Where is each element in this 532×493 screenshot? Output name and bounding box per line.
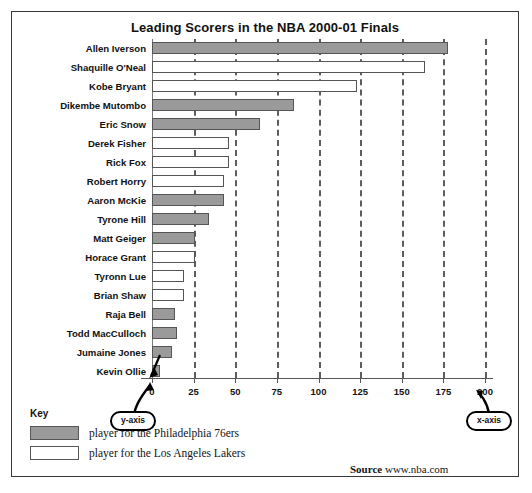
legend-title: Key	[30, 408, 320, 419]
legend-label-lakers: player for the Los Angeles Lakers	[89, 447, 245, 459]
bar-row: Todd MacCulloch	[152, 324, 485, 343]
tick-200	[485, 378, 486, 383]
x-tick-label-100: 100	[311, 386, 327, 397]
category-label: Derek Fisher	[88, 134, 146, 153]
bar	[152, 118, 260, 130]
bar	[152, 99, 294, 111]
legend-swatch-lakers	[30, 446, 79, 460]
category-label: Raja Bell	[105, 305, 146, 324]
bar	[152, 308, 175, 320]
gridline-200	[485, 39, 487, 378]
category-label: Horace Grant	[85, 248, 146, 267]
bar	[152, 194, 224, 206]
category-label: Allen Iverson	[86, 39, 146, 58]
callout-y-axis: y-axis	[110, 411, 156, 431]
source-value: www.nba.com	[385, 463, 448, 475]
source-note: Source www.nba.com	[350, 463, 448, 475]
bar-row: Robert Horry	[152, 172, 485, 191]
x-tick-label-50: 50	[230, 386, 241, 397]
bar-row: Shaquille O'Neal	[152, 58, 485, 77]
x-tick-label-25: 25	[188, 386, 199, 397]
bar	[152, 232, 195, 244]
source-label: Source	[350, 463, 382, 475]
bar-row: Tyrone Hill	[152, 210, 485, 229]
bar-row: Kobe Bryant	[152, 77, 485, 96]
bar	[152, 61, 425, 73]
bar-row: Aaron McKie	[152, 191, 485, 210]
callout-x-axis: x-axis	[466, 411, 512, 431]
legend-label-sixers: player for the Philadelphia 76ers	[89, 427, 239, 439]
category-label: Dikembe Mutombo	[60, 96, 146, 115]
bar	[152, 175, 224, 187]
chart-title: Leading Scorers in the NBA 2000-01 Final…	[12, 20, 518, 35]
x-tick-label-200: 200	[477, 386, 493, 397]
category-label: Kobe Bryant	[89, 77, 146, 96]
bar-row: Tyronn Lue	[152, 267, 485, 286]
bar-row: Raja Bell	[152, 305, 485, 324]
bar-row: Allen Iverson	[152, 39, 485, 58]
legend-swatch-sixers	[30, 426, 79, 440]
bar	[152, 346, 172, 358]
bar-row: Jumaine Jones	[152, 343, 485, 362]
bar-row: Dikembe Mutombo	[152, 96, 485, 115]
category-label: Shaquille O'Neal	[71, 58, 146, 77]
bar-row: Rick Fox	[152, 153, 485, 172]
bar	[152, 365, 160, 377]
bar-row: Eric Snow	[152, 115, 485, 134]
bar	[152, 137, 229, 149]
legend-item-sixers: player for the Philadelphia 76ers	[30, 426, 320, 440]
bar	[152, 270, 184, 282]
bar	[152, 156, 229, 168]
plot-area: Allen IversonShaquille O'NealKobe Bryant…	[152, 39, 485, 378]
legend-item-lakers: player for the Los Angeles Lakers	[30, 446, 320, 460]
bar	[152, 80, 357, 92]
category-label: Todd MacCulloch	[67, 324, 146, 343]
category-label: Tyronn Lue	[94, 267, 146, 286]
bar	[152, 213, 209, 225]
bar-row: Kevin Ollie	[152, 362, 485, 381]
bar	[152, 42, 448, 54]
category-label: Tyrone Hill	[97, 210, 146, 229]
x-tick-label-0: 0	[149, 386, 154, 397]
x-tick-label-125: 125	[352, 386, 368, 397]
bar-row: Matt Geiger	[152, 229, 485, 248]
x-tick-label-75: 75	[272, 386, 283, 397]
bar-row: Brian Shaw	[152, 286, 485, 305]
bar	[152, 289, 184, 301]
category-label: Rick Fox	[106, 153, 146, 172]
category-label: Eric Snow	[100, 115, 146, 134]
category-label: Robert Horry	[87, 172, 146, 191]
bar	[152, 251, 195, 263]
x-tick-label-175: 175	[435, 386, 451, 397]
bar-row: Horace Grant	[152, 248, 485, 267]
category-label: Matt Geiger	[93, 229, 146, 248]
category-label: Brian Shaw	[94, 286, 146, 305]
bar	[152, 327, 177, 339]
category-label: Kevin Ollie	[96, 362, 146, 381]
category-label: Aaron McKie	[87, 191, 146, 210]
bar-row: Derek Fisher	[152, 134, 485, 153]
chart-frame: Leading Scorers in the NBA 2000-01 Final…	[11, 11, 519, 477]
x-tick-label-150: 150	[394, 386, 410, 397]
legend: Key player for the Philadelphia 76ers pl…	[30, 408, 320, 466]
category-label: Jumaine Jones	[77, 343, 146, 362]
